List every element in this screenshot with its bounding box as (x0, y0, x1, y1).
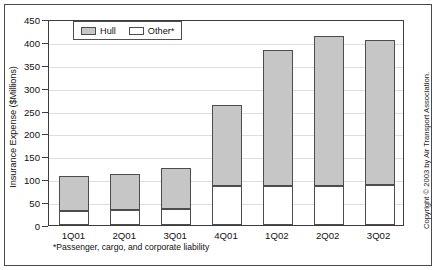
legend-label-hull: Hull (100, 26, 116, 36)
y-axis-tick-label: 150 (12, 152, 40, 163)
y-axis-tick (42, 157, 48, 158)
y-axis-tick-label: 250 (12, 106, 40, 117)
y-axis-tick-label: 350 (12, 60, 40, 71)
y-axis-tick (42, 20, 48, 21)
legend-label-other: Other* (148, 26, 175, 36)
copyright-text: Copyright © 2003 by Air Transport Associ… (423, 71, 432, 228)
y-axis-tick (42, 89, 48, 90)
bar-segment-hull (161, 168, 191, 209)
bar-group (365, 19, 395, 225)
bar-segment-hull (365, 40, 395, 185)
y-axis-tick-label: 200 (12, 129, 40, 140)
y-axis-tick-label: 0 (12, 221, 40, 232)
bar-segment-hull (212, 105, 242, 186)
x-axis-tick-label: 1Q02 (265, 230, 288, 241)
legend-swatch-other-icon (129, 27, 144, 35)
y-axis-tick (42, 180, 48, 181)
bar-segment-hull (110, 174, 140, 210)
bar-segment-other (161, 209, 191, 225)
bar-group (161, 19, 191, 225)
x-axis-tick-label: 1Q01 (62, 230, 85, 241)
chart-figure: Insurance Expense ($Millions) Copyright … (0, 0, 436, 270)
bar-segment-other (365, 185, 395, 225)
x-axis-tick-label: 2Q02 (316, 230, 339, 241)
bar-series-container (49, 21, 403, 225)
bar-group (110, 19, 140, 225)
bar-segment-other (59, 211, 89, 225)
bar-segment-hull (59, 176, 89, 210)
chart-legend: Hull Other* (73, 21, 182, 40)
bar-segment-hull (314, 36, 344, 186)
x-axis-tick-label: 3Q02 (367, 230, 390, 241)
bar-segment-other (212, 186, 242, 225)
bar-group (263, 19, 293, 225)
x-axis-tick-label: 4Q01 (214, 230, 237, 241)
legend-entry-other: Other* (129, 26, 175, 36)
y-axis-tick-label: 50 (12, 198, 40, 209)
bar-segment-other (110, 210, 140, 225)
y-axis-tick (42, 43, 48, 44)
y-axis-tick (42, 134, 48, 135)
y-axis-tick-label: 100 (12, 175, 40, 186)
copyright-notice: Copyright © 2003 by Air Transport Associ… (420, 36, 434, 264)
plot-area (48, 20, 404, 226)
y-axis-tick-label: 300 (12, 83, 40, 94)
bar-segment-other (314, 186, 344, 225)
x-axis-tick-label: 2Q01 (113, 230, 136, 241)
footnote: *Passenger, cargo, and corporate liabili… (53, 242, 209, 252)
y-axis-tick (42, 112, 48, 113)
bar-group (212, 19, 242, 225)
bar-group (59, 19, 89, 225)
legend-entry-hull: Hull (81, 26, 116, 36)
legend-swatch-hull-icon (81, 27, 96, 35)
y-axis-tick (42, 66, 48, 67)
y-axis-tick-label: 400 (12, 37, 40, 48)
bar-group (314, 19, 344, 225)
y-axis-tick-label: 450 (12, 15, 40, 26)
x-axis-tick-label: 3Q01 (163, 230, 186, 241)
bar-segment-other (263, 186, 293, 225)
bar-segment-hull (263, 50, 293, 186)
y-axis-tick (42, 203, 48, 204)
y-axis-tick (42, 226, 48, 227)
